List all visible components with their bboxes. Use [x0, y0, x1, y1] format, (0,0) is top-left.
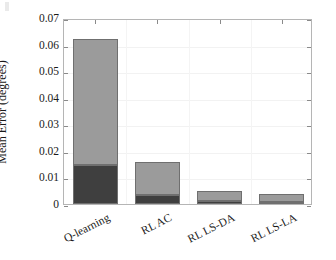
y-axis-tick: [64, 206, 68, 207]
y-axis-tick-label: 0: [53, 199, 59, 211]
y-axis-title: Mean Error (degrees): [0, 60, 10, 163]
bar-group[interactable]: [197, 18, 242, 204]
figure-container: Mean Error (degrees) 00.010.020.030.040.…: [0, 0, 336, 260]
y-axis-tick-label: 0.06: [39, 40, 59, 52]
y-axis-tick-label: 0.03: [39, 120, 59, 132]
bar-segment-upper[interactable]: [73, 39, 118, 165]
bar-segment-lower[interactable]: [73, 165, 118, 204]
y-axis-tick-mirror: [307, 47, 311, 48]
y-axis-tick-mirror: [307, 100, 311, 101]
vertical-gridline: [251, 20, 252, 204]
y-axis-tick-mirror: [307, 20, 311, 21]
y-axis-title-text: Mean Error (degrees): [0, 60, 10, 163]
x-axis-tick-label: Q-learning: [62, 211, 112, 244]
y-axis-tick: [64, 73, 68, 74]
y-axis-tick: [64, 179, 68, 180]
scan-artifact: [5, 2, 9, 11]
y-axis-tick: [64, 20, 68, 21]
y-axis-tick-label: 0.04: [39, 93, 59, 105]
bar-group[interactable]: [259, 18, 304, 204]
bar-group[interactable]: [73, 18, 118, 204]
bar-segment-lower[interactable]: [259, 202, 304, 204]
y-axis-tick-label: 0.07: [39, 13, 59, 25]
plot-area: [63, 19, 312, 205]
x-axis-tick-label: RL LS-LA: [249, 211, 299, 244]
y-axis-tick: [64, 153, 68, 154]
bar-segment-lower[interactable]: [135, 195, 180, 204]
x-axis-tick-label: RL AC: [139, 211, 173, 236]
y-axis-tick-label: 0.01: [39, 173, 59, 185]
y-axis-tick: [64, 126, 68, 127]
y-axis-tick-mirror: [307, 126, 311, 127]
bar-segment-upper[interactable]: [135, 162, 180, 196]
vertical-gridline: [126, 20, 127, 204]
y-axis-tick-mirror: [307, 153, 311, 154]
bar-segment-upper[interactable]: [197, 191, 242, 201]
x-axis-tick-label: RL LS-DA: [185, 211, 236, 245]
vertical-gridline: [189, 20, 190, 204]
y-axis-tick-mirror: [307, 73, 311, 74]
y-axis-tick-label: 0.05: [39, 66, 59, 78]
bar-segment-upper[interactable]: [259, 194, 304, 201]
y-axis-tick: [64, 47, 68, 48]
bar-segment-lower[interactable]: [197, 201, 242, 204]
y-axis-tick-label: 0.02: [39, 146, 59, 158]
y-axis-tick-mirror: [307, 206, 311, 207]
y-axis-tick: [64, 100, 68, 101]
y-axis-tick-mirror: [307, 179, 311, 180]
bar-group[interactable]: [135, 18, 180, 204]
